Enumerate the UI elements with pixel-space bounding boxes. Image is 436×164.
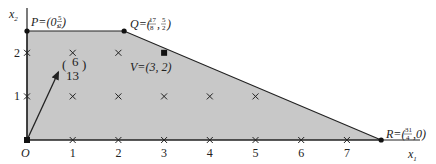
r-x-num: 31	[405, 126, 413, 134]
x-tick-label: 2	[115, 146, 121, 160]
q-x-den: 8	[150, 24, 154, 32]
optimal-point-label: V=(3, 2)	[130, 60, 171, 74]
x-tick-labels: 1234567	[70, 146, 350, 160]
vertex-dot-q	[122, 28, 127, 33]
x-tick-label: 7	[344, 146, 350, 160]
y-tick-label: 1	[14, 89, 20, 103]
integer-program-diagram: x2 x1 O 1234567 12 ( 6 13 ) P=(0, 5 2 ) …	[0, 0, 436, 164]
y-tick-labels: 12	[14, 46, 20, 104]
svg-text:): )	[166, 17, 171, 31]
vector-top: 6	[72, 54, 79, 69]
feasible-region	[27, 31, 381, 140]
x-tick-label: 4	[207, 146, 213, 160]
vertex-label-r: R=(	[385, 127, 406, 141]
origin-marker	[24, 137, 30, 143]
y-axis-label: x2	[8, 7, 18, 23]
x-axis-label: x1	[407, 147, 417, 163]
q-y-num: 5	[162, 16, 166, 24]
vertex-dot-p	[24, 28, 29, 33]
vertex-dot-r	[379, 137, 384, 142]
q-y-den: 2	[162, 24, 166, 32]
svg-text:): )	[82, 57, 86, 72]
q-x-num: 17	[149, 16, 157, 24]
svg-text:,: ,	[157, 17, 160, 31]
x-tick-label: 3	[161, 146, 167, 160]
vertex-label-p: P=(0,	[30, 15, 59, 29]
x-tick-label: 5	[253, 146, 259, 160]
vector-bottom: 13	[66, 68, 79, 83]
origin-label: O	[21, 146, 30, 160]
x-tick-label: 1	[70, 146, 76, 160]
svg-text:,0): ,0)	[413, 127, 426, 141]
optimal-point-marker	[161, 50, 167, 56]
svg-text:): )	[61, 15, 66, 29]
x-tick-label: 6	[298, 146, 304, 160]
y-tick-label: 2	[14, 46, 20, 60]
r-x-den: 4	[406, 134, 410, 142]
